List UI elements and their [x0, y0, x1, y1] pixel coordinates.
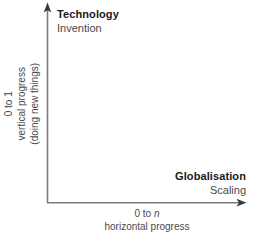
- globalisation-axis-label: Globalisation Scaling: [175, 170, 246, 197]
- globalisation-label-subtitle: Scaling: [175, 184, 246, 197]
- x-axis-caption-prefix: 0 to: [134, 208, 153, 219]
- progress-quadrant-diagram: Technology Invention Globalisation Scali…: [0, 0, 256, 233]
- technology-label-title: Technology: [57, 8, 119, 21]
- technology-axis-label: Technology Invention: [57, 8, 119, 35]
- x-axis-caption-line-1: 0 to n: [47, 207, 247, 220]
- y-axis-caption-line-3: (doing new things): [29, 34, 42, 174]
- x-axis-caption-line-2: horizontal progress: [47, 220, 247, 233]
- x-axis-caption: 0 to n horizontal progress: [47, 207, 247, 233]
- y-axis-caption-line-1: 0 to 1: [2, 34, 15, 174]
- x-axis-caption-n: n: [154, 208, 160, 219]
- globalisation-label-title: Globalisation: [175, 170, 246, 183]
- y-axis-caption: 0 to 1 vertical progress (doing new thin…: [2, 34, 42, 174]
- technology-label-subtitle: Invention: [57, 22, 119, 35]
- y-axis-caption-line-2: vertical progress: [15, 34, 28, 174]
